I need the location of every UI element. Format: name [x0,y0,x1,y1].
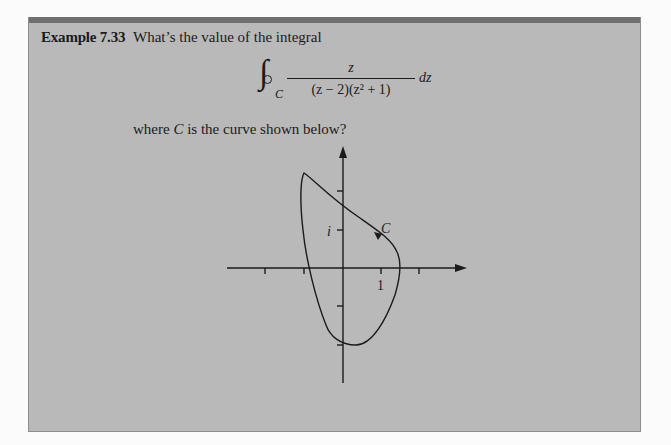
y-tick-label: i [327,224,331,239]
x-ticks [265,268,419,274]
y-axis-arrow-icon [339,146,347,158]
contour-figure: C i 1 [0,0,671,445]
curve-c [301,173,400,345]
curve-label: C [381,221,391,236]
x-axis-arrow-icon [455,264,467,272]
x-tick-label: 1 [377,278,384,293]
